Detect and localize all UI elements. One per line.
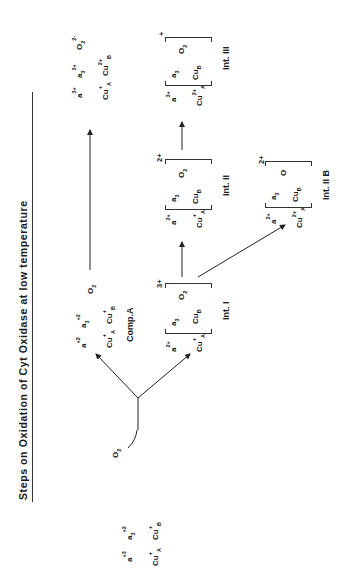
int3-a: a3+ (166, 91, 178, 102)
comp-a-a: a+2 (76, 337, 88, 348)
int3-a3: a3 (170, 70, 181, 78)
comp-a-o2: O2 (87, 285, 98, 294)
o2-curl-icon (128, 430, 137, 448)
product-cu-a: Cu+A (98, 82, 113, 100)
diagram-canvas: Steps on Oxidation of Cyt Oxidase at low… (0, 0, 349, 580)
int2b-label: Int. II B (322, 170, 331, 200)
int3-o2: O2 (178, 45, 189, 54)
int1-label: Int. I (222, 302, 231, 321)
int2b-bracket-right (265, 161, 312, 166)
comp-a-cu-a: Cu+A (102, 330, 117, 348)
start-cu-b: Cu+B (148, 522, 163, 540)
comp-a-a3: a3+2 (76, 314, 91, 328)
int1-a: a2+ (166, 341, 178, 352)
arrow-to-comp-a (96, 354, 138, 398)
int3-label: Int. III (222, 47, 231, 71)
int2-cu-a: Cu+A (192, 210, 207, 228)
int2-a: a2+ (166, 214, 178, 225)
product-cu-b: Cu2+B (98, 55, 113, 76)
product-a: a3+ (72, 87, 84, 98)
int3-charge: + (158, 32, 166, 36)
int3-bracket-left (165, 81, 212, 86)
reaction-arrows (0, 0, 349, 580)
reagent-o2: O2 (112, 449, 123, 458)
int1-charge: 3+ (156, 279, 164, 288)
arrow-to-int-1 (138, 354, 190, 398)
int2b-a: a2+ (266, 213, 278, 224)
int1-bracket-left (165, 329, 212, 334)
int1-cu-b: CuB (192, 309, 203, 324)
int2b-cu-a: Cu2+A (292, 207, 307, 228)
comp-a-cu-b: Cu+B (102, 306, 117, 324)
int2-a3: a3 (170, 194, 181, 202)
int2-o2: O2 (178, 169, 189, 178)
int2b-charge: 2+ (258, 155, 266, 164)
int2-charge: 2+ (156, 153, 164, 162)
start-a3: a3+2 (122, 526, 137, 540)
start-cu-a: Cu+A (148, 548, 163, 566)
comp-a-label: Comp.A (126, 308, 135, 343)
int2b-cu-b: CuB (292, 187, 303, 202)
int1-a3: a3 (170, 318, 181, 326)
int2-bracket-right (165, 159, 212, 164)
int1-o2: O2 (178, 291, 189, 300)
start-a: a+3 (122, 551, 134, 562)
diagram-frame: Steps on Oxidation of Cyt Oxidase at low… (0, 0, 349, 580)
int3-cu-a: Cu2+A (192, 85, 207, 106)
product-o2: O22- (72, 36, 87, 50)
int1-bracket-right (165, 283, 212, 288)
int2-bracket-left (165, 205, 212, 210)
int2-cu-b: CuB (192, 189, 203, 204)
int2b-bracket-left (265, 203, 312, 208)
int3-cu-b: CuB (192, 65, 203, 80)
arrow-int-1-to-int-2b (198, 225, 285, 277)
int3-bracket-right (165, 37, 212, 42)
int1-cu-a: Cu+A (192, 334, 207, 352)
int2-label: Int. II (222, 175, 231, 196)
product-a3: a33+ (72, 64, 87, 78)
int2b-o: O (280, 170, 288, 176)
int2b-a3: a3 (270, 192, 281, 200)
